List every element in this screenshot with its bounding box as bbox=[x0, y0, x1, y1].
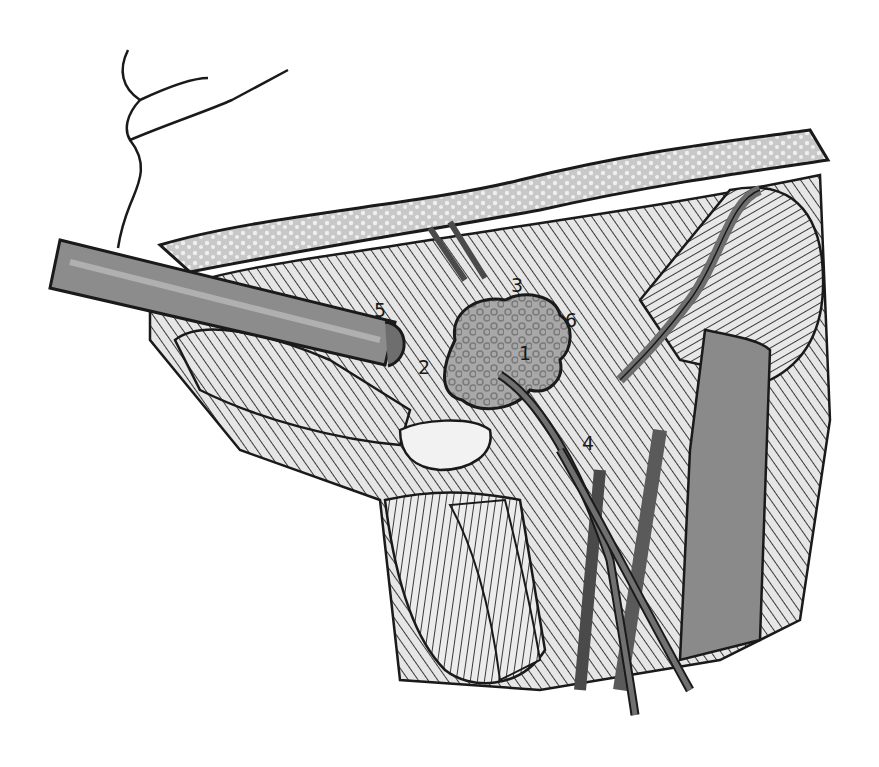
label-6: 6 bbox=[565, 311, 577, 330]
label-2: 2 bbox=[418, 358, 430, 377]
anatomy-illustration bbox=[0, 0, 879, 767]
label-1: 1 bbox=[519, 344, 531, 363]
suture-thread bbox=[118, 50, 288, 248]
label-4: 4 bbox=[582, 434, 594, 453]
label-5: 5 bbox=[374, 301, 386, 320]
label-3: 3 bbox=[511, 276, 523, 295]
